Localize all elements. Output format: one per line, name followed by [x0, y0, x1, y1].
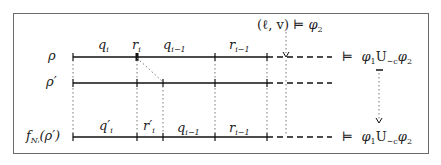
result-bottom-formula: ⊨ φ1U∼cφ2 — [342, 130, 412, 146]
segment-r-i-prime: r′i — [143, 119, 155, 135]
segment-r-i-minus-1-bottom: ri−1 — [229, 121, 250, 137]
row-label-rho: ρ — [48, 49, 56, 62]
segment-r-i: ri — [132, 38, 141, 54]
row-label-f-rho-prime: fNᵢ(ρ′) — [26, 129, 60, 145]
segment-q-i: qi — [98, 38, 109, 54]
segment-q-i-minus-1-bottom: qi−1 — [177, 121, 200, 137]
segment-q-i-minus-1: qi−1 — [163, 38, 186, 54]
result-implication-arrow — [376, 70, 383, 123]
rho-prime-timeline — [73, 79, 332, 87]
segment-q-i-prime: q′i — [99, 119, 113, 135]
result-top-formula: ⊨ φ1U∼cφ2 — [342, 50, 412, 66]
annotation-state-models-phi2: (ℓ, v) ⊨ φ2 — [257, 18, 323, 34]
segment-r-i-minus-1: ri−1 — [229, 38, 250, 54]
annotation-arrow — [283, 32, 289, 57]
row-label-rho-prime: ρ′ — [46, 75, 57, 88]
rho-timeline — [73, 53, 332, 61]
